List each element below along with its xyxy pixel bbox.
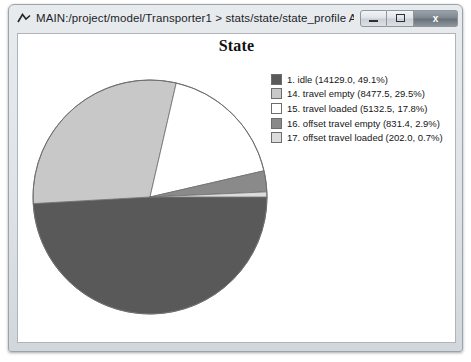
maximize-icon [396,14,405,22]
legend-item[interactable]: 16. offset travel empty (831.4, 2.9%) [271,116,456,131]
window-titlebar[interactable]: MAIN:/project/model/Transporter1 > stats… [9,5,462,31]
minimize-icon [369,20,378,22]
legend-swatch-travel-loaded [271,103,282,114]
close-button[interactable]: x [414,10,458,27]
pie-chart-svg [32,79,272,319]
maximize-button[interactable] [387,10,414,27]
legend-item[interactable]: 14. travel empty (8477.5, 29.5%) [271,87,456,102]
chart-title: State [18,37,455,55]
legend-label: 15. travel loaded (5132.5, 17.8%) [287,103,427,114]
legend-swatch-offset-travel-empty [271,118,282,129]
legend-label: 16. offset travel empty (831.4, 2.9%) [287,118,440,129]
legend-label: 14. travel empty (8477.5, 29.5%) [287,88,425,99]
pie-chart [32,79,272,319]
window-controls: x [360,10,458,27]
chart-legend: 1. idle (14129.0, 49.1%) 14. travel empt… [271,72,456,145]
legend-label: 17. offset travel loaded (202.0, 0.7%) [287,132,443,143]
pie-slice[interactable] [33,197,267,314]
minimize-button[interactable] [360,10,387,27]
chart-client-area: State 1. idle (14129.0, 49.1%) 14. trave… [17,33,456,343]
legend-swatch-travel-empty [271,88,282,99]
legend-item[interactable]: 17. offset travel loaded (202.0, 0.7%) [271,130,456,145]
graph-window: MAIN:/project/model/Transporter1 > stats… [8,4,463,352]
legend-label: 1. idle (14129.0, 49.1%) [287,74,388,85]
legend-item[interactable]: 1. idle (14129.0, 49.1%) [271,72,456,87]
legend-item[interactable]: 15. travel loaded (5132.5, 17.8%) [271,101,456,116]
legend-swatch-offset-travel-loaded [271,132,282,143]
chart-peak-icon [17,11,31,25]
legend-swatch-idle [271,74,282,85]
window-title: MAIN:/project/model/Transporter1 > stats… [36,12,354,24]
